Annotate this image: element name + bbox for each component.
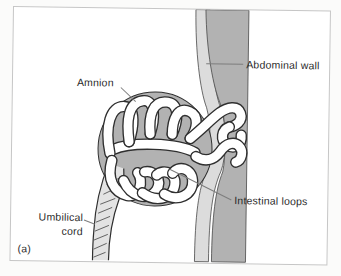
label-umbilical-cord: Umbilical cord — [19, 209, 83, 238]
umbilical-cord-leader-line — [84, 220, 95, 224]
abdominal-wall-leader-line — [206, 64, 243, 65]
panel-letter-label: (a) — [18, 242, 32, 254]
label-abdominal-wall: Abdominal wall — [246, 58, 320, 71]
figure-panel: Amnion Abdominal wall Intestinal loops U… — [9, 6, 331, 265]
label-intestinal-loops: Intestinal loops — [234, 194, 307, 207]
label-amnion: Amnion — [77, 76, 114, 89]
